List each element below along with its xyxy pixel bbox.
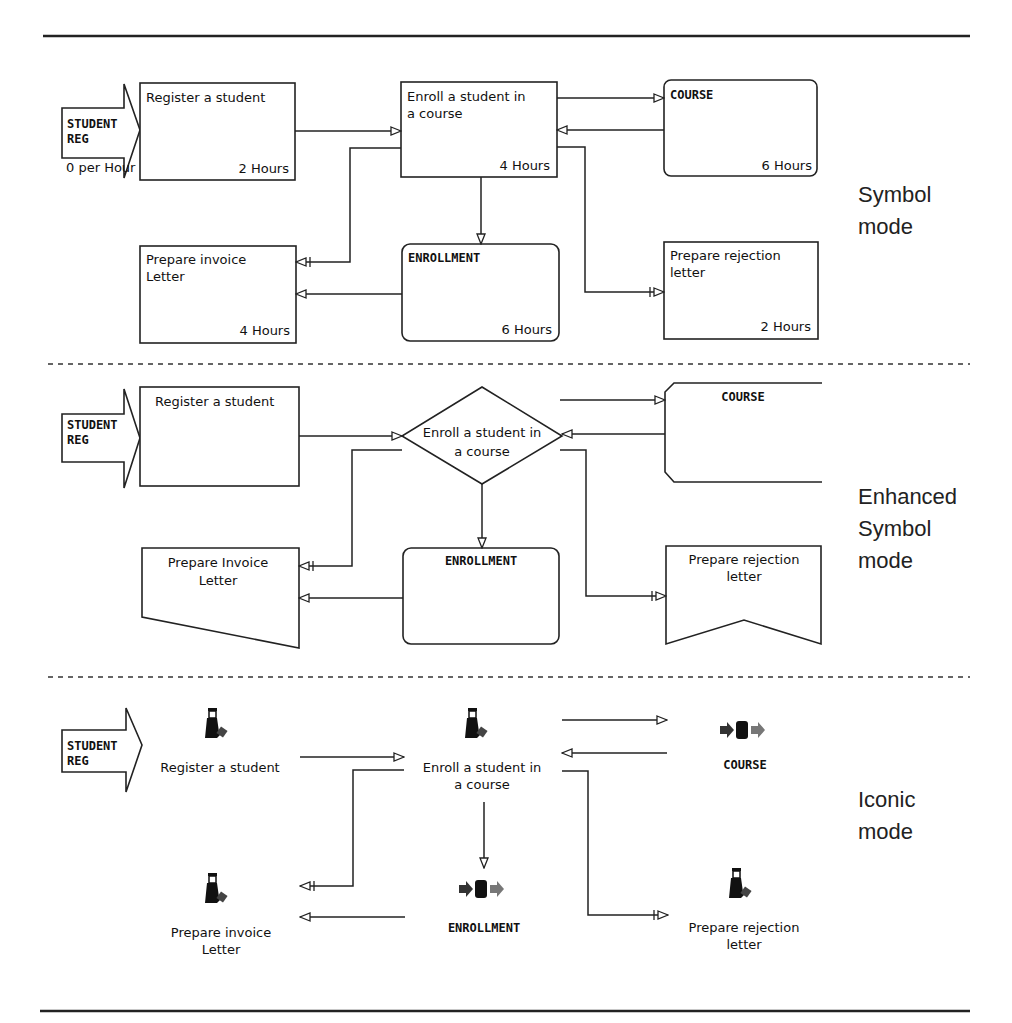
activity-invoice[interactable]: Prepare Invoice Letter bbox=[142, 548, 299, 648]
svg-text:2 Hours: 2 Hours bbox=[239, 161, 290, 176]
mode-label: Symbol bbox=[858, 182, 931, 207]
svg-text:COURSE: COURSE bbox=[721, 390, 764, 404]
svg-text:Register a student: Register a student bbox=[160, 760, 279, 775]
svg-text:letter: letter bbox=[726, 569, 762, 584]
activity-enroll[interactable]: Enroll a student in a course bbox=[423, 708, 542, 792]
activity-rejection[interactable]: Prepare rejection letter bbox=[666, 546, 821, 644]
activity-invoice[interactable]: Prepare invoice Letter bbox=[171, 873, 271, 957]
mode-label: Iconic bbox=[858, 787, 915, 812]
svg-text:Enroll a student in: Enroll a student in bbox=[407, 89, 526, 104]
storage-course[interactable]: COURSE 6 Hours bbox=[664, 80, 817, 176]
svg-text:2 Hours: 2 Hours bbox=[761, 319, 812, 334]
symbol-mode-section: STUDENT REG 0 per Hour Register a studen… bbox=[62, 80, 931, 343]
activity-register[interactable]: Register a student bbox=[140, 387, 299, 486]
svg-text:COURSE: COURSE bbox=[670, 88, 713, 102]
svg-text:6 Hours: 6 Hours bbox=[762, 158, 813, 173]
mode-label: mode bbox=[858, 548, 913, 573]
svg-text:STUDENT: STUDENT bbox=[67, 117, 118, 131]
svg-text:Enroll a student in: Enroll a student in bbox=[423, 760, 542, 775]
iconic-mode-section: STUDENT REG Register a student Enroll a … bbox=[62, 708, 915, 957]
svg-text:Prepare rejection: Prepare rejection bbox=[689, 552, 800, 567]
svg-text:REG: REG bbox=[67, 754, 89, 768]
svg-text:Enroll a student in: Enroll a student in bbox=[423, 425, 542, 440]
svg-text:REG: REG bbox=[67, 132, 89, 146]
svg-text:6 Hours: 6 Hours bbox=[502, 322, 553, 337]
svg-text:Prepare invoice: Prepare invoice bbox=[171, 925, 271, 940]
storage-course[interactable]: COURSE bbox=[665, 383, 822, 482]
mode-label: Enhanced bbox=[858, 484, 957, 509]
route-arrow bbox=[560, 450, 666, 596]
worker-icon bbox=[205, 708, 228, 738]
svg-text:STUDENT: STUDENT bbox=[67, 418, 118, 432]
route-arrow bbox=[562, 771, 668, 915]
arrival-arrow[interactable]: STUDENT REG bbox=[62, 389, 140, 488]
svg-text:Register a student: Register a student bbox=[146, 90, 265, 105]
activity-rejection[interactable]: Prepare rejection letter bbox=[689, 868, 800, 952]
enhanced-symbol-mode-section: STUDENT REG Register a student Enroll a … bbox=[62, 383, 957, 648]
storage-course[interactable]: COURSE bbox=[720, 721, 767, 772]
worker-icon bbox=[205, 873, 228, 903]
worker-icon bbox=[729, 868, 752, 898]
arrival-arrow[interactable]: STUDENT REG bbox=[62, 708, 142, 792]
svg-text:Letter: Letter bbox=[202, 942, 241, 957]
svg-text:Register a student: Register a student bbox=[155, 394, 274, 409]
storage-enrollment[interactable]: ENROLLMENT bbox=[448, 880, 520, 935]
route-arrow bbox=[300, 770, 404, 886]
process-diagram: STUDENT REG 0 per Hour Register a studen… bbox=[0, 0, 1012, 1023]
svg-text:letter: letter bbox=[726, 937, 762, 952]
route-arrow bbox=[296, 148, 401, 262]
svg-text:0 per Hour: 0 per Hour bbox=[66, 160, 136, 175]
svg-text:4 Hours: 4 Hours bbox=[240, 323, 291, 338]
activity-register[interactable]: Register a student bbox=[160, 708, 279, 775]
mode-label: Symbol bbox=[858, 516, 931, 541]
activity-enroll[interactable]: Enroll a student in a course 4 Hours bbox=[401, 82, 557, 177]
mode-label: mode bbox=[858, 214, 913, 239]
decision-enroll[interactable]: Enroll a student in a course bbox=[402, 387, 562, 484]
svg-text:STUDENT: STUDENT bbox=[67, 739, 118, 753]
svg-text:Letter: Letter bbox=[146, 269, 185, 284]
svg-text:ENROLLMENT: ENROLLMENT bbox=[408, 251, 480, 265]
svg-text:ENROLLMENT: ENROLLMENT bbox=[448, 921, 520, 935]
worker-icon bbox=[465, 708, 488, 738]
mode-label: mode bbox=[858, 819, 913, 844]
svg-text:a course: a course bbox=[454, 444, 510, 459]
svg-text:Prepare Invoice: Prepare Invoice bbox=[168, 555, 269, 570]
svg-text:a course: a course bbox=[407, 106, 463, 121]
svg-text:a course: a course bbox=[454, 777, 510, 792]
svg-text:ENROLLMENT: ENROLLMENT bbox=[445, 554, 517, 568]
svg-text:Letter: Letter bbox=[199, 573, 238, 588]
route-arrow bbox=[557, 147, 664, 292]
storage-icon bbox=[720, 721, 765, 739]
activity-register[interactable]: Register a student 2 Hours bbox=[140, 83, 295, 180]
svg-text:Prepare rejection: Prepare rejection bbox=[670, 248, 781, 263]
storage-enrollment[interactable]: ENROLLMENT 6 Hours bbox=[402, 244, 559, 341]
svg-text:4 Hours: 4 Hours bbox=[500, 158, 551, 173]
svg-text:COURSE: COURSE bbox=[723, 758, 766, 772]
svg-text:REG: REG bbox=[67, 433, 89, 447]
svg-text:Prepare rejection: Prepare rejection bbox=[689, 920, 800, 935]
route-arrow bbox=[299, 450, 402, 566]
storage-icon bbox=[459, 880, 504, 898]
storage-enrollment[interactable]: ENROLLMENT bbox=[403, 548, 559, 644]
activity-invoice[interactable]: Prepare invoice Letter 4 Hours bbox=[140, 246, 296, 343]
activity-rejection[interactable]: Prepare rejection letter 2 Hours bbox=[664, 242, 818, 339]
svg-text:Prepare invoice: Prepare invoice bbox=[146, 252, 246, 267]
arrival-arrow[interactable]: STUDENT REG 0 per Hour bbox=[62, 84, 140, 178]
svg-text:letter: letter bbox=[670, 265, 706, 280]
